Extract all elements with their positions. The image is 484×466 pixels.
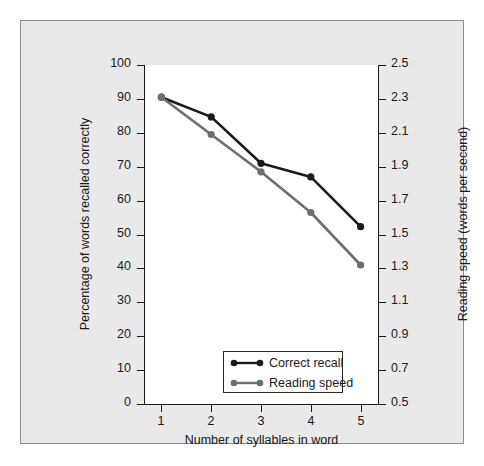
- y-axis-right-title: Reading speed (words per second): [456, 74, 470, 374]
- y-axis-left-tick: [137, 370, 144, 371]
- y-axis-left-tick: [137, 268, 144, 269]
- y-axis-right-tick-label: 1.1: [391, 293, 431, 307]
- y-axis-right-tick: [379, 235, 386, 236]
- x-axis-tick: [361, 405, 362, 412]
- y-axis-right-tick: [379, 370, 386, 371]
- figure: 0102030405060708090100 0.50.70.91.11.31.…: [0, 0, 484, 466]
- x-axis-tick: [311, 405, 312, 412]
- y-axis-right-tick-label: 2.1: [391, 124, 431, 138]
- y-axis-right-tick-label: 1.3: [391, 259, 431, 273]
- x-axis-tick-label: 1: [141, 414, 181, 428]
- y-axis-left-title: Percentage of words recalled correctly: [78, 94, 92, 354]
- y-axis-right-tick: [379, 268, 386, 269]
- y-axis-left-tick: [137, 302, 144, 303]
- x-axis-tick-label: 4: [291, 414, 331, 428]
- y-axis-right-tick: [379, 133, 386, 134]
- y-axis-left-tick: [137, 201, 144, 202]
- y-axis-right-tick: [379, 65, 386, 66]
- y-axis-left-tick: [137, 336, 144, 337]
- y-axis-right-tick-label: 0.9: [391, 327, 431, 341]
- y-axis-right-tick: [379, 336, 386, 337]
- chart-panel: 0102030405060708090100 0.50.70.91.11.31.…: [20, 20, 464, 444]
- x-axis-tick-label: 2: [191, 414, 231, 428]
- y-axis-right-tick-label: 1.7: [391, 192, 431, 206]
- y-axis-left-tick: [137, 235, 144, 236]
- y-axis-right-tick: [379, 302, 386, 303]
- y-axis-left-tick-label: 0: [81, 395, 131, 409]
- y-axis-left-spine: [144, 65, 145, 405]
- x-axis-tick: [261, 405, 262, 412]
- y-axis-right-tick-label: 1.5: [391, 226, 431, 240]
- legend-item-correct-recall: Correct recall: [224, 352, 344, 373]
- x-axis-tick-label: 5: [341, 414, 381, 428]
- x-axis-title: Number of syllables in word: [144, 433, 379, 447]
- y-axis-right-tick: [379, 404, 386, 405]
- y-axis-right-tick-label: 2.5: [391, 56, 431, 70]
- y-axis-right-tick: [379, 167, 386, 168]
- legend-label-correct-recall: Correct recall: [269, 356, 343, 370]
- y-axis-left-tick: [137, 133, 144, 134]
- x-axis-tick: [211, 405, 212, 412]
- y-axis-left-tick-label: 10: [81, 361, 131, 375]
- y-axis-left-tick: [137, 65, 144, 66]
- legend-label-reading-speed: Reading speed: [269, 376, 353, 390]
- y-axis-right-tick-label: 1.9: [391, 158, 431, 172]
- legend: Correct recall Reading speed: [223, 351, 343, 393]
- y-axis-right-tick-label: 0.7: [391, 361, 431, 375]
- y-axis-left-tick-label: 100: [81, 56, 131, 70]
- y-axis-right-tick: [379, 201, 386, 202]
- legend-swatch-correct-recall: [230, 357, 264, 369]
- y-axis-right-tick: [379, 99, 386, 100]
- y-axis-left-tick: [137, 99, 144, 100]
- y-axis-left-tick: [137, 167, 144, 168]
- x-axis-tick-label: 3: [241, 414, 281, 428]
- y-axis-left-tick: [137, 404, 144, 405]
- legend-item-reading-speed: Reading speed: [224, 372, 344, 393]
- y-axis-right-tick-label: 2.3: [391, 90, 431, 104]
- y-axis-right-tick-label: 0.5: [391, 395, 431, 409]
- legend-swatch-reading-speed: [230, 377, 264, 389]
- x-axis-tick: [161, 405, 162, 412]
